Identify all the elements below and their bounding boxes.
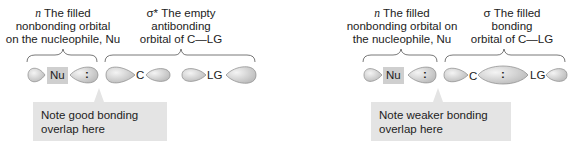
- note-good-overlap: Note good bonding overlap here: [33, 102, 167, 141]
- sigma-label: σ The filled bonding orbital of C—LG: [460, 7, 564, 46]
- n-orbital-label: n The filled nonbonding orbital on the n…: [342, 7, 462, 46]
- note-pointer: [94, 88, 104, 102]
- sigma-star-label: σ* The empty antibonding orbital of C—LG: [126, 7, 236, 46]
- left-panel: n The filled nonbonding orbital on the n…: [0, 0, 286, 141]
- atom-nu: Nu: [383, 67, 404, 84]
- atom-lg: LG: [207, 69, 222, 82]
- note-weaker-overlap: Note weaker bonding overlap here: [371, 102, 511, 141]
- lone-pair: :: [85, 68, 89, 81]
- lone-pair-bond: :: [501, 68, 505, 81]
- right-panel: n The filled nonbonding orbital on the n…: [286, 0, 572, 141]
- lone-pair-nu: :: [423, 68, 427, 81]
- note-pointer: [433, 88, 443, 102]
- atom-lg: LG: [530, 69, 545, 82]
- atom-nu: Nu: [47, 67, 68, 84]
- atom-c: C: [469, 70, 477, 83]
- atom-c: C: [136, 69, 144, 82]
- n-orbital-label: n The filled nonbonding orbital on the n…: [4, 7, 122, 46]
